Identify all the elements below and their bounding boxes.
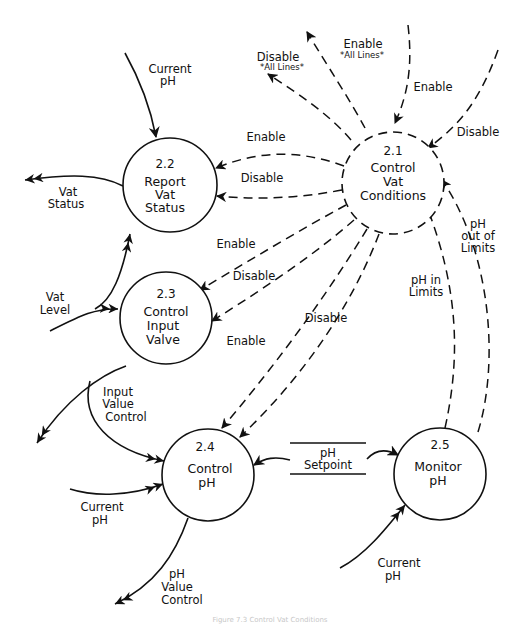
svg-text:Vat: Vat [46, 290, 65, 304]
process-number: 2.2 [155, 157, 174, 171]
svg-text:*All Lines*: *All Lines* [260, 62, 304, 72]
process-label-line: Control [143, 304, 188, 319]
svg-text:Enable: Enable [226, 334, 265, 348]
label-vat-level: Vat Level [40, 290, 70, 317]
process-2-4[interactable]: 2.4 Control pH [162, 429, 254, 521]
process-label-line: pH [429, 473, 446, 488]
label-disable-2-3: Disable [233, 269, 276, 283]
process-number: 2.5 [430, 438, 449, 452]
label-disable-in: Disable [457, 125, 500, 139]
flow-setpoint-to-2-5 [367, 451, 398, 459]
svg-text:Enable: Enable [343, 37, 382, 51]
svg-text:pH: pH [385, 569, 401, 583]
svg-text:Disable: Disable [233, 269, 276, 283]
process-2-1[interactable]: 2.1 Control Vat Conditions [342, 132, 444, 234]
svg-text:Value: Value [102, 397, 134, 411]
data-store-label-2: Setpoint [304, 458, 353, 472]
label-disable-all-lines: Disable *All Lines* [257, 50, 304, 72]
label-ph-in-limits: pH in Limits [409, 273, 444, 299]
label-enable-in: Enable [413, 80, 452, 94]
label-current-ph-top: Current pH [148, 62, 192, 88]
process-number: 2.4 [195, 440, 214, 454]
svg-text:Limits: Limits [409, 285, 444, 299]
label-enable-2-3: Enable [216, 237, 255, 251]
label-ph-value-control: pH Value Control [161, 567, 203, 607]
data-flow-diagram: pH Setpoint 2.1 Control Vat Conditions 2… [0, 0, 521, 626]
flow-current-ph-to-2-4 [70, 484, 163, 494]
process-label-line: Valve [146, 332, 180, 347]
control-enable-to-2-2 [216, 154, 344, 168]
svg-text:Disable: Disable [457, 125, 500, 139]
svg-text:Level: Level [40, 303, 70, 317]
figure-caption: Figure 7.3 Control Vat Conditions [212, 616, 327, 624]
control-enable-to-2-4 [222, 229, 367, 428]
svg-text:Enable: Enable [413, 80, 452, 94]
label-ph-out-of-limits: pH out of Limits [461, 217, 496, 255]
process-label-line: Control [370, 160, 415, 175]
control-ph-in-limits [425, 202, 455, 428]
label-disable-2-2: Disable [241, 171, 284, 185]
flow-setpoint-to-2-4 [254, 458, 290, 465]
process-2-5[interactable]: 2.5 Monitor pH [394, 428, 486, 520]
process-2-2[interactable]: 2.2 Report Vat Status [123, 138, 217, 232]
label-enable-2-4: Enable [226, 334, 265, 348]
data-store-ph-setpoint[interactable]: pH Setpoint [290, 443, 366, 474]
process-label-line: Monitor [414, 459, 462, 474]
svg-text:*All Lines*: *All Lines* [340, 50, 384, 60]
svg-text:Value: Value [161, 580, 193, 594]
process-label-line: Status [145, 200, 185, 215]
process-label-line: Vat [383, 174, 403, 189]
process-number: 2.1 [383, 144, 402, 158]
process-2-3[interactable]: 2.3 Control Input Valve [120, 272, 212, 364]
svg-text:Status: Status [48, 197, 85, 211]
control-enable-in [395, 25, 410, 123]
label-enable-all-lines: Enable *All Lines* [340, 37, 384, 60]
svg-text:Current: Current [80, 500, 124, 514]
svg-text:pH: pH [160, 74, 176, 88]
svg-text:pH: pH [169, 567, 185, 581]
label-vat-status: Vat Status [48, 185, 85, 211]
process-label-line: Input [147, 318, 179, 333]
svg-text:Control: Control [161, 593, 203, 607]
label-current-ph-2-4: Current pH [80, 500, 124, 527]
process-number: 2.3 [156, 287, 175, 301]
svg-text:Disable: Disable [241, 171, 284, 185]
process-label-line: Conditions [360, 188, 426, 203]
svg-text:Enable: Enable [216, 237, 255, 251]
process-label-line: Control [187, 461, 232, 476]
label-disable-2-4: Disable [305, 311, 348, 325]
process-label-line: pH [198, 475, 215, 490]
svg-text:Current: Current [377, 556, 421, 570]
svg-text:Limits: Limits [461, 241, 496, 255]
label-current-ph-2-5: Current pH [377, 556, 421, 583]
label-input-value-control: Input Value Control [102, 385, 147, 424]
svg-text:Disable: Disable [305, 311, 348, 325]
svg-text:pH: pH [92, 513, 108, 527]
label-enable-2-2: Enable [246, 130, 285, 144]
control-disable-to-2-2 [217, 190, 342, 198]
svg-text:Enable: Enable [246, 130, 285, 144]
svg-text:Control: Control [105, 410, 147, 424]
